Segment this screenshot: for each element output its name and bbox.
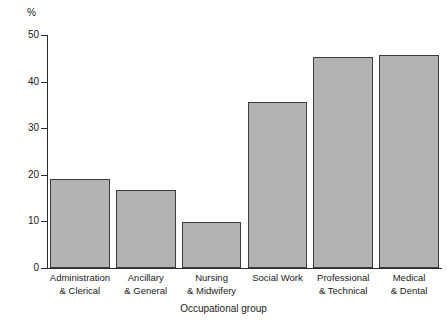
y-tick-label-20: 20 [21, 170, 39, 180]
x-category-label-1-line1: Ancillary [113, 272, 179, 285]
y-tick-label-40: 40 [21, 77, 39, 87]
bar-ancillary-general [116, 190, 176, 268]
bar-nursing-midwifery [182, 222, 242, 268]
x-category-label-5-line2: & Dental [376, 285, 442, 298]
x-category-label-2-line1: Nursing [179, 272, 245, 285]
x-category-label-5-line1: Medical [376, 272, 442, 285]
x-axis-line [47, 268, 442, 269]
y-tick-label-0: 0 [21, 263, 39, 273]
bar-chart: % 0 10 20 30 40 50 Administration & Cler… [0, 0, 447, 332]
x-category-label-0-line1: Administration [47, 272, 113, 285]
x-category-label-4: Professional & Technical [310, 272, 376, 297]
x-category-label-4-line1: Professional [310, 272, 376, 285]
x-axis-title: Occupational group [0, 303, 447, 315]
bar-professional-technical [313, 57, 373, 268]
y-tick-0 [41, 268, 47, 269]
x-category-label-4-line2: & Technical [310, 285, 376, 298]
bar-administration-clerical [50, 179, 110, 268]
x-category-label-3-line1: Social Work [245, 272, 311, 285]
plot-area [47, 35, 442, 268]
y-tick-label-50: 50 [21, 30, 39, 40]
x-category-label-5: Medical & Dental [376, 272, 442, 297]
x-category-label-0: Administration & Clerical [47, 272, 113, 297]
bar-social-work [248, 102, 308, 268]
y-tick-label-30: 30 [21, 123, 39, 133]
x-category-label-2: Nursing & Midwifery [179, 272, 245, 297]
x-category-label-3: Social Work [245, 272, 311, 285]
x-category-label-1: Ancillary & General [113, 272, 179, 297]
x-category-label-2-line2: & Midwifery [179, 285, 245, 298]
x-category-label-1-line2: & General [113, 285, 179, 298]
y-tick-label-10: 10 [21, 216, 39, 226]
bar-medical-dental [379, 55, 439, 268]
y-axis-unit-label: % [27, 8, 36, 18]
x-category-label-0-line2: & Clerical [47, 285, 113, 298]
